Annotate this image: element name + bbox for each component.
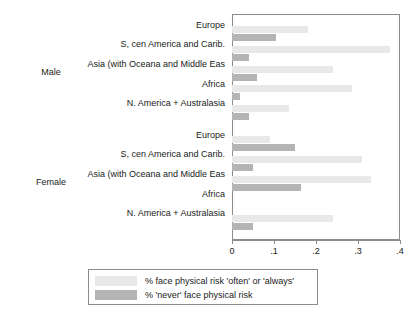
x-tick-label: .2 [306,246,326,257]
bar-never [232,74,257,81]
bar-often-always [232,26,308,33]
bar-chart: EuropeS, cen America and Carib.Asia (wit… [0,0,418,318]
bar-never [232,34,276,41]
bar-never [232,54,249,61]
bar-never [232,144,295,151]
x-tick [358,240,359,244]
category-axis-labels: EuropeS, cen America and Carib.Asia (wit… [0,14,229,240]
x-tick-label: 0 [222,246,242,257]
category-label: Africa [202,189,225,200]
bar-never [232,223,253,230]
x-tick [274,240,275,244]
bar-often-always [232,105,289,112]
bar-often-always [232,46,390,53]
category-label: Europe [196,20,225,31]
legend-swatch [95,290,137,300]
bar-never [232,113,249,120]
category-label: Africa [202,79,225,90]
bar-often-always [232,215,333,222]
x-tick [316,240,317,244]
x-tick-label: .1 [264,246,284,257]
bar-often-always [232,66,333,73]
bar-never [232,164,253,171]
category-label: Asia (with Oceana and Middle Eas [87,169,225,180]
legend-label: % face physical risk 'often' or 'always' [145,274,294,288]
group-label-male: Male [20,67,82,78]
bar-never [232,184,301,191]
x-tick [400,240,401,244]
category-label: S, cen America and Carib. [120,39,225,50]
group-label-female: Female [20,177,82,188]
x-tick-label: .4 [390,246,410,257]
bar-often-always [232,156,362,163]
bar-never [232,93,240,100]
category-label: Asia (with Oceana and Middle Eas [87,59,225,70]
bar-often-always [232,136,270,143]
x-tick [232,240,233,244]
category-label: Europe [196,130,225,141]
x-tick-label: .3 [348,246,368,257]
legend: % face physical risk 'often' or 'always'… [88,269,318,305]
category-label: N. America + Australasia [127,98,225,109]
category-label: S, cen America and Carib. [120,149,225,160]
category-label: N. America + Australasia [127,208,225,219]
legend-swatch [95,276,137,286]
legend-label: % 'never' face physical risk [145,288,252,302]
bar-often-always [232,176,371,183]
bar-often-always [232,85,352,92]
